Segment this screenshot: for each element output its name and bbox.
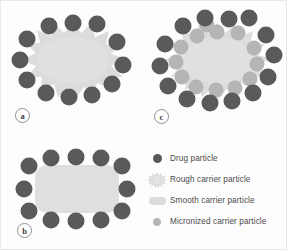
drug-particle (258, 27, 275, 44)
drug-particle (266, 47, 283, 64)
legend-item-drug-particle: Drug particle (144, 148, 286, 169)
micronized-carrier-particle (175, 70, 190, 85)
drug-particle (245, 85, 262, 102)
drug-particle (43, 212, 60, 229)
panel-b-graphic (13, 151, 139, 229)
drug-particle (114, 158, 131, 175)
drug-particle (12, 52, 29, 69)
drug-particle (38, 85, 55, 102)
drug-particle-swatch (144, 150, 170, 168)
drug-particle (175, 18, 192, 35)
legend-label-smooth-carrier: Smooth carrier particle (170, 196, 255, 205)
micronized-carrier-particle (247, 41, 262, 56)
micronized-carrier-particle (243, 72, 258, 87)
panel-label-b-text: b (22, 226, 27, 236)
legend-label-micronized-carrier: Micronized carrier particle (170, 217, 266, 226)
drug-particle (115, 57, 132, 74)
drug-particle (68, 149, 85, 166)
drug-particle (160, 78, 177, 95)
drug-particle (157, 36, 174, 53)
panel-a-graphic (7, 15, 139, 107)
drug-particle (61, 89, 78, 106)
legend-item-micronized-carrier: Micronized carrier particle (144, 211, 286, 232)
legend-label-drug-particle: Drug particle (170, 154, 218, 163)
drug-particle (104, 76, 121, 93)
drug-particle (41, 18, 58, 35)
legend-item-rough-carrier: Rough carrier particle (144, 169, 286, 190)
panel-c (149, 13, 285, 109)
panel-c-graphic (149, 13, 285, 109)
drug-particle (260, 69, 277, 86)
drug-particle (21, 203, 38, 220)
drug-particle (179, 91, 196, 108)
drug-particle (16, 181, 33, 198)
drug-particle (93, 150, 110, 167)
micronized-carrier-swatch (144, 213, 170, 231)
drug-particle (19, 72, 36, 89)
panel-b (13, 151, 139, 229)
micronized-carrier-particle (250, 57, 265, 72)
drug-particle (119, 181, 136, 198)
panel-label-c-text: c (160, 112, 164, 122)
drug-particle (19, 31, 36, 48)
drug-particle (68, 213, 85, 230)
drug-particle (221, 11, 238, 28)
micronized-carrier-particle (174, 40, 189, 55)
smooth-carrier-particle-b (35, 165, 119, 213)
drug-particle (84, 87, 101, 104)
figure-container: a b (0, 0, 287, 250)
panel-label-b: b (17, 223, 32, 238)
drug-particle (114, 203, 131, 220)
panel-label-c: c (154, 109, 169, 124)
drug-particle (202, 95, 219, 112)
legend-label-rough-carrier: Rough carrier particle (170, 175, 250, 184)
smooth-carrier-shape-b (35, 165, 119, 213)
drug-particle (224, 93, 241, 110)
panel-label-a: a (15, 108, 30, 123)
rough-carrier-swatch (144, 171, 170, 189)
micronized-carrier-particle (169, 55, 184, 70)
legend: Drug particle Rough carrier particle Smo… (144, 148, 286, 232)
panel-label-a-text: a (20, 111, 24, 121)
rough-carrier-core-c (181, 37, 253, 83)
drug-particle (241, 10, 258, 27)
drug-particle (197, 10, 214, 27)
legend-item-smooth-carrier: Smooth carrier particle (144, 190, 286, 211)
drug-particle (93, 212, 110, 229)
drug-particle (65, 15, 82, 32)
drug-particle (43, 150, 60, 167)
drug-particle (109, 34, 126, 51)
drug-particle (152, 58, 169, 75)
smooth-carrier-swatch (144, 192, 170, 210)
drug-particle (21, 158, 38, 175)
micronized-carrier-particle (231, 26, 246, 41)
panel-a (7, 15, 139, 107)
rough-carrier-core-a (37, 37, 109, 83)
drug-particle (89, 16, 106, 33)
